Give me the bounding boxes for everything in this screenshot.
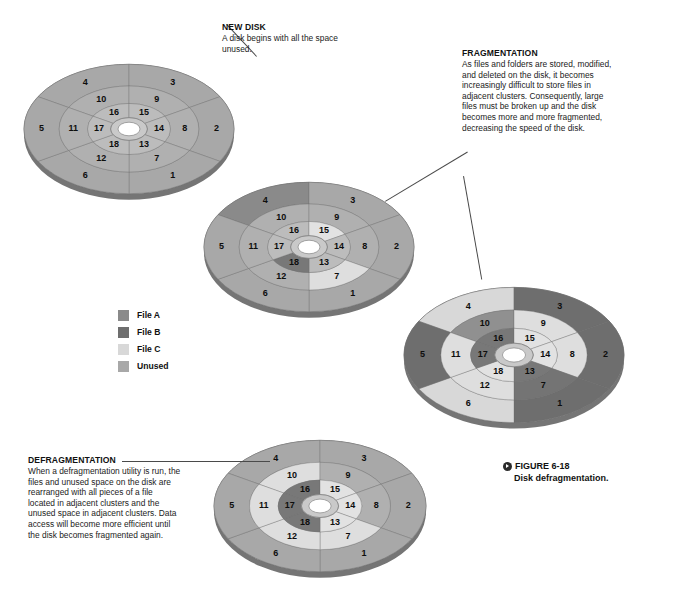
cluster-number: 7: [346, 531, 351, 541]
cluster-number: 9: [334, 212, 339, 222]
cluster-number: 5: [39, 123, 44, 133]
cluster-number: 11: [69, 123, 79, 133]
cluster-number: 16: [109, 107, 119, 117]
figure-title: Disk defragmentation.: [514, 473, 609, 483]
cluster-number: 8: [182, 123, 187, 133]
cluster-number: 6: [83, 170, 88, 180]
leader-line-fragmentation-a: [385, 152, 468, 202]
cluster-number: 14: [334, 241, 344, 251]
legend-item: File B: [118, 324, 169, 341]
cluster-number: 16: [289, 225, 299, 235]
cluster-number: 14: [345, 500, 355, 510]
annotation-defragmentation: DEFRAGMENTATION When a defragmentation u…: [28, 455, 182, 540]
cluster-number: 3: [557, 301, 562, 311]
disk-platter: 432165109871211161514131817: [200, 180, 418, 328]
annotation-heading: DEFRAGMENTATION: [28, 455, 182, 465]
legend-swatch: [118, 361, 129, 372]
cluster-number: 11: [451, 349, 461, 359]
legend-swatch: [118, 310, 129, 321]
cluster-number: 12: [480, 380, 490, 390]
cluster-number: 4: [466, 301, 471, 311]
cluster-number: 15: [525, 333, 535, 343]
cluster-number: 13: [330, 517, 340, 527]
play-circle-icon: [503, 462, 512, 471]
cluster-number: 4: [273, 453, 278, 463]
legend-swatch: [118, 327, 129, 338]
cluster-number: 1: [170, 170, 175, 180]
annotation-body: As files and folders are stored, modifie…: [462, 59, 614, 133]
cluster-number: 10: [96, 94, 106, 104]
cluster-number: 4: [263, 195, 268, 205]
annotation-fragmentation: FRAGMENTATION As files and folders are s…: [462, 48, 614, 133]
cluster-number: 11: [259, 500, 269, 510]
legend-item: File A: [118, 307, 169, 324]
cluster-number: 9: [154, 94, 159, 104]
cluster-number: 8: [374, 500, 379, 510]
cluster-number: 10: [276, 212, 286, 222]
cluster-number: 7: [154, 153, 159, 163]
cluster-number: 2: [406, 500, 411, 510]
cluster-number: 13: [139, 139, 149, 149]
legend: File AFile BFile CUnused: [118, 307, 169, 375]
cluster-number: 17: [285, 500, 295, 510]
legend-label: File A: [137, 310, 160, 321]
legend-item: File C: [118, 341, 169, 358]
cluster-number: 2: [394, 241, 399, 251]
disk-files-stored: 432165109871211161514131817: [200, 180, 418, 328]
disk-platter: 432165109871211161514131817: [400, 285, 628, 439]
cluster-number: 6: [263, 288, 268, 298]
cluster-number: 14: [154, 123, 164, 133]
cluster-number: 15: [330, 484, 340, 494]
legend-swatch: [118, 344, 129, 355]
leader-line-fragmentation-b: [463, 176, 482, 280]
cluster-number: 13: [319, 257, 329, 267]
cluster-number: 9: [541, 318, 546, 328]
figure-canvas: 432165109871211161514131817 432165109871…: [0, 0, 675, 603]
cluster-number: 13: [525, 366, 535, 376]
cluster-number: 2: [214, 123, 219, 133]
cluster-number: 15: [319, 225, 329, 235]
cluster-number: 10: [287, 470, 297, 480]
cluster-number: 18: [109, 139, 119, 149]
annotation-heading: NEW DISK: [222, 22, 362, 32]
cluster-number: 8: [570, 349, 575, 359]
cluster-number: 16: [493, 333, 503, 343]
disk-spindle-hole: [298, 240, 320, 254]
cluster-number: 8: [362, 241, 367, 251]
cluster-number: 9: [346, 470, 351, 480]
cluster-number: 15: [139, 107, 149, 117]
annotation-heading: FRAGMENTATION: [462, 48, 614, 58]
cluster-number: 5: [229, 500, 234, 510]
cluster-number: 17: [478, 349, 488, 359]
legend-label: Unused: [137, 361, 169, 372]
cluster-number: 7: [541, 380, 546, 390]
cluster-number: 16: [300, 484, 310, 494]
figure-number: FIGURE 6-18: [515, 461, 570, 471]
cluster-number: 3: [350, 195, 355, 205]
cluster-number: 14: [540, 349, 550, 359]
cluster-number: 1: [350, 288, 355, 298]
annotation-new-disk: NEW DISK A disk begins with all the spac…: [222, 22, 362, 54]
cluster-number: 3: [170, 77, 175, 87]
cluster-number: 11: [249, 241, 259, 251]
cluster-number: 1: [362, 548, 367, 558]
cluster-number: 3: [362, 453, 367, 463]
cluster-number: 2: [603, 349, 608, 359]
annotation-body: A disk begins with all the space unused.: [222, 33, 362, 54]
legend-item: Unused: [118, 358, 169, 375]
cluster-number: 18: [289, 257, 299, 267]
legend-label: File B: [137, 327, 160, 338]
cluster-number: 5: [219, 241, 224, 251]
disk-spindle-hole: [118, 122, 140, 136]
cluster-number: 6: [273, 548, 278, 558]
cluster-number: 17: [94, 123, 104, 133]
cluster-number: 7: [334, 271, 339, 281]
cluster-number: 12: [276, 271, 286, 281]
disk-fragmented: 432165109871211161514131817: [400, 285, 628, 439]
figure-caption: FIGURE 6-18 Disk defragmentation.: [503, 461, 609, 483]
cluster-number: 12: [287, 531, 297, 541]
cluster-number: 12: [96, 153, 106, 163]
cluster-number: 18: [300, 517, 310, 527]
cluster-number: 17: [274, 241, 284, 251]
annotation-body: When a defragmentation utility is run, t…: [28, 466, 182, 540]
